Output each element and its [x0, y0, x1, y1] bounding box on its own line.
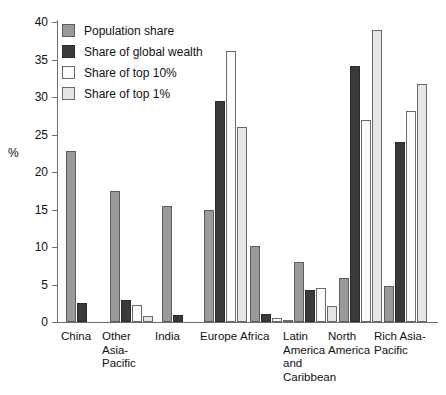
legend-label: Share of global wealth — [84, 45, 203, 59]
x-axis-line — [57, 322, 438, 323]
legend-item: Population share — [62, 20, 252, 41]
y-tick-label: 20 — [35, 164, 48, 180]
bar-group — [384, 22, 427, 322]
legend-label: Share of top 10% — [84, 66, 177, 80]
bar — [250, 246, 260, 323]
y-tick: 35 — [52, 60, 57, 61]
bar — [417, 84, 427, 322]
legend-label: Population share — [84, 24, 174, 38]
y-tick: 20 — [52, 172, 57, 173]
bar — [272, 318, 282, 323]
x-axis-label: Latin America and Caribbean — [283, 330, 331, 384]
y-tick-mark — [52, 22, 57, 23]
x-axis-label: Africa — [240, 330, 284, 344]
bar — [305, 290, 315, 322]
chart-legend: Population shareShare of global wealthSh… — [62, 20, 252, 104]
bar — [143, 316, 153, 322]
x-axis-label: India — [155, 330, 201, 344]
y-tick-label: 30 — [35, 89, 48, 105]
bar — [350, 66, 360, 323]
bar — [327, 306, 337, 323]
legend-label: Share of top 1% — [84, 87, 170, 101]
bar-group — [294, 22, 337, 322]
bar — [132, 305, 142, 322]
legend-swatch-icon — [62, 45, 75, 58]
bar — [66, 151, 76, 322]
bar — [121, 300, 131, 323]
x-axis-label: Other Asia-Pacific — [102, 330, 158, 371]
bar — [237, 127, 247, 322]
bar — [372, 30, 382, 322]
legend-item: Share of top 1% — [62, 83, 252, 104]
y-axis-title: % — [8, 146, 19, 160]
bar — [162, 206, 172, 322]
y-tick-label: 25 — [35, 127, 48, 143]
bar — [173, 315, 183, 323]
y-tick-mark — [52, 97, 57, 98]
y-tick-mark — [52, 247, 57, 248]
y-tick-mark — [52, 285, 57, 286]
y-tick-label: 35 — [35, 52, 48, 68]
bar — [283, 320, 293, 322]
bar — [77, 303, 87, 323]
y-tick-label: 10 — [35, 239, 48, 255]
y-tick-label: 40 — [35, 14, 48, 30]
y-tick-mark — [52, 172, 57, 173]
bar — [406, 111, 416, 323]
y-tick-label: 15 — [35, 202, 48, 218]
x-axis-label: Rich Asia- Pacific — [374, 330, 436, 357]
bar-group — [250, 22, 293, 322]
y-tick-mark — [52, 60, 57, 61]
bar — [339, 278, 349, 322]
bar — [294, 262, 304, 322]
y-tick-mark — [52, 210, 57, 211]
y-tick-mark — [52, 322, 57, 323]
y-tick-label: 0 — [41, 314, 48, 330]
y-tick: 15 — [52, 210, 57, 211]
bar — [384, 286, 394, 322]
bar — [395, 142, 405, 322]
legend-swatch-icon — [62, 24, 75, 37]
y-tick-label: 5 — [41, 277, 48, 293]
y-tick: 10 — [52, 247, 57, 248]
bar — [361, 120, 371, 323]
y-tick: 0 — [52, 322, 57, 323]
legend-swatch-icon — [62, 87, 75, 100]
y-tick: 30 — [52, 97, 57, 98]
wealth-distribution-bar-chart: % 0510152025303540 ChinaOther Asia-Pacif… — [0, 0, 446, 395]
bar — [316, 288, 326, 323]
y-tick: 40 — [52, 22, 57, 23]
bar — [110, 191, 120, 322]
legend-item: Share of top 10% — [62, 62, 252, 83]
bar — [215, 101, 225, 322]
y-tick: 5 — [52, 285, 57, 286]
bar — [261, 314, 271, 322]
bar — [204, 210, 214, 322]
x-axis-label: China — [61, 330, 105, 344]
legend-swatch-icon — [62, 66, 75, 79]
legend-item: Share of global wealth — [62, 41, 252, 62]
y-tick-mark — [52, 135, 57, 136]
bar-group — [339, 22, 382, 322]
x-axis-label: North America — [328, 330, 378, 357]
y-tick: 25 — [52, 135, 57, 136]
